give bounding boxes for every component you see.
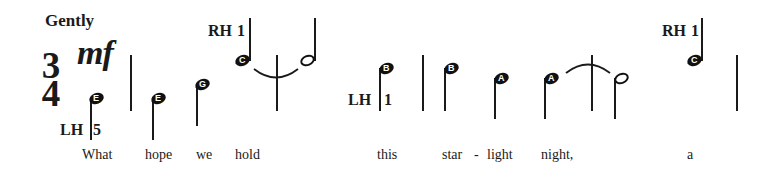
lyric-word: hope <box>145 148 172 162</box>
lyric-word: this <box>377 148 397 162</box>
lyric-word: star <box>442 148 462 162</box>
lyric-word: light <box>487 148 513 162</box>
lyric-hyphen: - <box>474 148 479 162</box>
music-score: Gently 3 4 mf LH 5 RH 1 LH 1 RH 1 E E G … <box>0 0 770 179</box>
lyric-word: hold <box>235 148 260 162</box>
lyric-word: we <box>196 148 212 162</box>
lyric-word: a <box>687 148 693 162</box>
lyric-word: What <box>82 148 112 162</box>
lyric-word: night, <box>541 148 573 162</box>
